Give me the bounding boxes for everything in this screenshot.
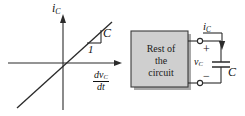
rest-of-circuit-label: Rest of the circuit (133, 34, 189, 88)
linear-iv-curve (17, 22, 112, 108)
top-terminal-node (197, 38, 202, 43)
polarity-minus-label: − (203, 70, 210, 82)
x-axis-label: dvC dt (93, 70, 109, 92)
slope-rise-label: C (103, 27, 111, 39)
polarity-plus-label: + (203, 43, 210, 55)
rest-of-circuit-line-2: the (155, 55, 167, 67)
bottom-terminal-node (197, 80, 202, 85)
x-axis-arrowhead (114, 60, 122, 66)
graph-characteristic-line (17, 22, 112, 108)
circuit-current-label: iC (203, 21, 211, 34)
rest-of-circuit-line-1: Rest of (147, 43, 176, 55)
capacitor-component-label: C (228, 66, 236, 78)
y-axis-subscript: C (55, 7, 60, 16)
circuit-current-subscript: C (206, 26, 211, 34)
slope-run-label: 1 (88, 44, 94, 55)
x-axis-fraction: dvC dt (93, 70, 109, 92)
circuit-voltage-subscript: C (198, 60, 202, 67)
figure-artwork (0, 0, 245, 116)
capacitor-characteristic-figure: iC C 1 dvC dt Rest of the circuit iC + −… (0, 0, 245, 116)
x-axis-denominator: dt (93, 82, 109, 92)
slope-triangle (87, 30, 101, 43)
x-axis-numerator-subscript: C (103, 73, 107, 80)
rest-of-circuit-line-3: circuit (148, 67, 174, 79)
current-arrowhead-icon (219, 41, 225, 50)
y-axis-label: iC (52, 2, 61, 16)
circuit-voltage-label: vC (194, 57, 203, 68)
